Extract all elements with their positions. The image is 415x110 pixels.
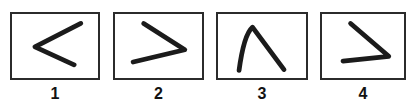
chevron-left-stroke	[35, 23, 81, 64]
drawing-panel-1	[10, 12, 100, 80]
chevron-right-flat-stroke	[343, 23, 389, 61]
drawing-canvas-2	[115, 14, 202, 78]
drawing-panel-3	[216, 12, 308, 80]
line-drawing-figure: 1 2 3 4	[0, 0, 415, 110]
chevron-right-stroke	[133, 23, 185, 62]
panel-label-1: 1	[10, 85, 100, 103]
drawing-canvas-1	[12, 14, 98, 78]
drawing-canvas-3	[218, 14, 306, 78]
panel-label-3: 3	[216, 85, 308, 103]
panel-label-2: 2	[113, 85, 204, 103]
drawing-panel-2	[113, 12, 204, 80]
drawing-panel-4	[320, 12, 406, 80]
caret-up-stroke	[239, 27, 284, 70]
panel-label-4: 4	[320, 85, 406, 103]
drawing-canvas-4	[322, 14, 404, 78]
